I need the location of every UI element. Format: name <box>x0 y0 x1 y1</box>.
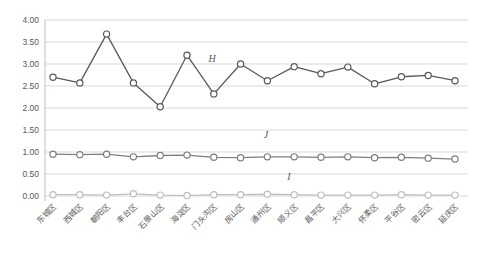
data-point-marker <box>130 80 136 86</box>
y-tick-label: 2.50 <box>22 81 39 91</box>
series-j-label: J <box>264 129 269 140</box>
y-tick-label: 1.00 <box>22 147 39 157</box>
data-point-marker <box>345 64 351 70</box>
series-h-line <box>53 34 455 107</box>
x-axis-label: 东城区 <box>34 201 58 225</box>
data-point-marker <box>318 71 324 77</box>
x-axis-label: 朝阳区 <box>89 202 112 225</box>
x-axis-label: 大兴区 <box>329 201 353 225</box>
series-i-line <box>53 194 455 196</box>
y-tick-label: 0.50 <box>22 169 39 179</box>
data-point-marker <box>157 192 163 198</box>
data-point-marker <box>452 78 458 84</box>
x-axis-label: 房山区 <box>222 201 246 225</box>
data-point-marker <box>77 152 83 158</box>
data-point-marker <box>104 192 110 198</box>
y-tick-label: 2.00 <box>22 103 39 113</box>
chart-canvas: 4.003.503.002.502.001.501.000.500.00东城区西… <box>0 0 480 253</box>
data-point-marker <box>372 155 378 161</box>
data-point-marker <box>425 72 431 78</box>
data-point-marker <box>184 192 190 198</box>
series-h-label: H <box>207 53 216 64</box>
data-point-marker <box>184 52 190 58</box>
y-tick-label: 3.00 <box>22 59 39 69</box>
data-point-marker <box>264 191 270 197</box>
x-axis-label: 昌平区 <box>303 202 326 225</box>
data-point-marker <box>104 151 110 157</box>
data-point-marker <box>238 61 244 67</box>
line-chart: 4.003.503.002.502.001.501.000.500.00东城区西… <box>0 0 480 253</box>
data-point-marker <box>157 152 163 158</box>
data-point-marker <box>264 78 270 84</box>
data-point-marker <box>291 154 297 160</box>
x-axis-label: 门头沟区 <box>190 201 220 231</box>
series-j-line <box>53 154 455 159</box>
data-point-marker <box>372 192 378 198</box>
data-point-marker <box>398 154 404 160</box>
data-point-marker <box>130 154 136 160</box>
data-point-marker <box>452 192 458 198</box>
data-point-marker <box>291 64 297 70</box>
x-axis-label: 密云区 <box>410 201 434 225</box>
data-point-marker <box>130 191 136 197</box>
data-point-marker <box>104 31 110 37</box>
data-point-marker <box>211 192 217 198</box>
data-point-marker <box>211 91 217 97</box>
data-point-marker <box>50 74 56 80</box>
x-axis-label: 西城区 <box>62 202 85 225</box>
y-tick-label: 3.50 <box>22 37 39 47</box>
data-point-marker <box>398 192 404 198</box>
data-point-marker <box>184 152 190 158</box>
x-axis-label: 海淀区 <box>168 201 192 225</box>
data-point-marker <box>77 80 83 86</box>
data-point-marker <box>452 156 458 162</box>
x-axis-label: 平谷区 <box>383 202 406 225</box>
data-point-marker <box>238 192 244 198</box>
data-point-marker <box>211 154 217 160</box>
data-point-marker <box>425 155 431 161</box>
data-point-marker <box>264 154 270 160</box>
y-tick-label: 1.50 <box>22 125 39 135</box>
data-point-marker <box>318 192 324 198</box>
x-axis-label: 顺义区 <box>276 202 299 225</box>
x-axis-label: 石景山区 <box>136 201 166 231</box>
data-point-marker <box>77 192 83 198</box>
data-point-marker <box>50 151 56 157</box>
x-axis-label: 怀柔区 <box>356 201 380 225</box>
series-i-label: I <box>286 171 291 182</box>
y-tick-label: 4.00 <box>22 15 39 25</box>
x-axis-label: 丰台区 <box>115 201 139 225</box>
data-point-marker <box>50 192 56 198</box>
x-axis-label: 通州区 <box>249 201 273 225</box>
data-point-marker <box>372 81 378 87</box>
data-point-marker <box>157 104 163 110</box>
data-point-marker <box>318 154 324 160</box>
data-point-marker <box>291 192 297 198</box>
data-point-marker <box>345 192 351 198</box>
x-axis-label: 延庆区 <box>436 201 460 225</box>
data-point-marker <box>345 154 351 160</box>
y-tick-label: 0.00 <box>22 191 39 201</box>
data-point-marker <box>238 155 244 161</box>
data-point-marker <box>425 192 431 198</box>
data-point-marker <box>398 74 404 80</box>
